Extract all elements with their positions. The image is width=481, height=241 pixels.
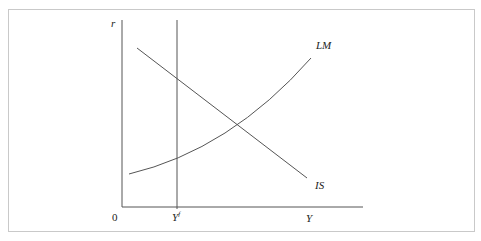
is-curve — [137, 48, 307, 178]
is-lm-diagram: r 0 Y Yf LM IS — [0, 0, 481, 241]
yf-label: Yf — [172, 210, 181, 223]
is-label: IS — [314, 179, 325, 191]
yf-sup: f — [178, 210, 181, 218]
lm-label: LM — [315, 39, 332, 51]
origin-label: 0 — [112, 211, 118, 223]
lm-curve — [129, 58, 311, 174]
y-axis-label: Y — [306, 212, 314, 224]
r-axis-label: r — [111, 17, 116, 29]
